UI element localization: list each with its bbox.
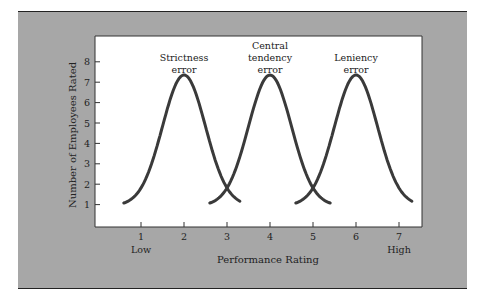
y-tick-label: 3 bbox=[84, 158, 90, 169]
x-tick-label: 7 bbox=[396, 231, 402, 242]
y-tick-label: 1 bbox=[84, 199, 90, 210]
x-tick-sublabel-high: High bbox=[387, 244, 411, 255]
y-tick-label: 4 bbox=[84, 138, 90, 149]
y-tick-label: 7 bbox=[84, 77, 90, 88]
curve-label: Central bbox=[252, 40, 288, 51]
x-tick-label: 6 bbox=[353, 231, 359, 242]
chart: 12345678 1Low234567High StrictnesserrorC… bbox=[0, 0, 480, 300]
y-tick-label: 6 bbox=[84, 97, 90, 108]
y-axis-label: Number of Employees Rated bbox=[67, 61, 78, 208]
x-tick-label: 3 bbox=[224, 231, 230, 242]
curve-label: Leniency bbox=[334, 52, 378, 63]
x-tick-label: 1 bbox=[138, 231, 144, 242]
x-tick-label: 2 bbox=[181, 231, 187, 242]
curve-label: tendency bbox=[248, 52, 293, 63]
x-tick-label: 5 bbox=[310, 231, 316, 242]
x-tick-label: 4 bbox=[267, 231, 273, 242]
curve-label: error bbox=[344, 64, 369, 75]
curve-label: Strictness bbox=[160, 52, 209, 63]
x-tick-sublabel-low: Low bbox=[131, 244, 151, 255]
y-tick-label: 5 bbox=[84, 118, 90, 129]
curve-label: error bbox=[258, 64, 283, 75]
y-tick-label: 2 bbox=[84, 179, 90, 190]
curve-label: error bbox=[172, 64, 197, 75]
y-tick-label: 8 bbox=[84, 56, 90, 67]
x-axis-label: Performance Rating bbox=[217, 254, 319, 265]
